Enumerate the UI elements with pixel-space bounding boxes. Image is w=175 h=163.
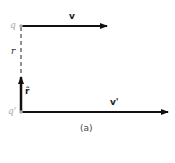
charge-q-dot <box>19 24 23 28</box>
v-vector-label: v <box>69 12 75 21</box>
charge-q-prime-dot <box>19 110 23 114</box>
charge-q-label: q <box>10 21 16 30</box>
figure-caption: (a) <box>80 124 93 133</box>
r-distance-label: r <box>11 47 15 56</box>
charge-q-prime-label: q' <box>8 107 16 116</box>
v-prime-vector-label: v' <box>110 98 119 107</box>
diagram-canvas <box>0 0 175 163</box>
r-hat-label: r̂ <box>25 87 29 96</box>
